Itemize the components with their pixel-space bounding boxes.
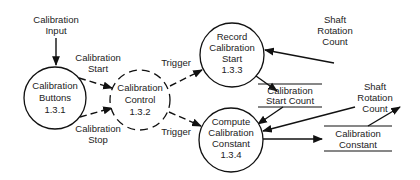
process-1-3-3-line2: Calibration xyxy=(209,42,254,53)
flow-trigger-compute: Trigger xyxy=(161,112,201,137)
store-constant-line2: Constant xyxy=(339,139,377,150)
process-1-3-2-line2: Control xyxy=(125,94,156,105)
label-calibration-start-line2: Start xyxy=(88,63,108,74)
process-1-3-1-line1: Calibration xyxy=(32,80,77,91)
arrow-start-count-to-compute xyxy=(258,107,283,124)
flow-calibration-input: Calibration Input xyxy=(33,14,78,65)
process-1-3-2-number: 1.3.2 xyxy=(129,106,150,117)
process-1-3-4-line2: Calibration xyxy=(208,127,253,138)
label-shaft-right-line1: Shaft xyxy=(364,81,387,92)
process-1-3-1-line2: Buttons xyxy=(39,92,71,103)
process-calibration-control: Calibration Control 1.3.2 xyxy=(110,70,170,130)
process-1-3-4-number: 1.3.4 xyxy=(220,149,241,160)
flow-shaft-rotation-count-out: Shaft Rotation Count xyxy=(357,81,400,126)
label-calibration-input-line1: Calibration xyxy=(33,14,78,25)
process-1-3-3-line3: Start xyxy=(222,53,242,64)
process-1-3-4-line3: Constant xyxy=(212,138,250,149)
arrow-trigger-record xyxy=(170,70,202,86)
process-1-3-4-line1: Compute xyxy=(212,116,251,127)
label-trigger-bottom: Trigger xyxy=(161,126,191,137)
data-flow-diagram: Calibration Input Calibration Start Cali… xyxy=(0,0,420,180)
data-store-calibration-constant: Calibration Constant xyxy=(324,126,392,151)
arrow-calibration-stop xyxy=(80,108,112,117)
label-calibration-start-line1: Calibration xyxy=(75,52,120,63)
process-1-3-3-number: 1.3.3 xyxy=(221,64,242,75)
label-shaft-top-line1: Shaft xyxy=(324,14,347,25)
flow-shaft-rotation-count-in: Shaft Rotation Count xyxy=(265,14,353,63)
arrow-trigger-compute xyxy=(169,112,201,126)
label-shaft-right-line3: Count xyxy=(362,103,388,114)
label-calibration-input-line2: Input xyxy=(45,25,66,36)
process-1-3-1-number: 1.3.1 xyxy=(44,104,65,115)
label-shaft-top-line3: Count xyxy=(322,36,348,47)
process-1-3-2-line1: Calibration xyxy=(117,82,162,93)
store-start-count-line2: Start Count xyxy=(266,95,314,106)
store-constant-line1: Calibration xyxy=(335,128,380,139)
label-shaft-right-line2: Rotation xyxy=(357,92,392,103)
data-store-calibration-start-count: Calibration Start Count xyxy=(258,84,322,107)
process-record-calibration-start: Record Calibration Start 1.3.3 xyxy=(200,23,264,87)
label-trigger-top: Trigger xyxy=(161,57,191,68)
label-shaft-top-line2: Rotation xyxy=(317,25,352,36)
process-compute-calibration-constant: Compute Calibration Constant 1.3.4 xyxy=(199,108,263,172)
flow-trigger-record: Trigger xyxy=(161,57,202,86)
process-1-3-3-line1: Record xyxy=(217,31,248,42)
label-calibration-stop-line1: Calibration xyxy=(75,123,120,134)
arrow-shaft-rotation-count-in xyxy=(265,50,334,63)
process-calibration-buttons: Calibration Buttons 1.3.1 xyxy=(24,67,86,129)
label-calibration-stop-line2: Stop xyxy=(88,134,108,145)
